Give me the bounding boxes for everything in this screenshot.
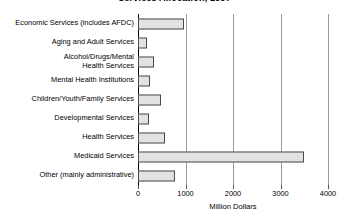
bar [138,113,149,124]
x-axis-tick-label: 2000 [225,189,241,198]
x-axis-tick-label: 1000 [177,189,193,198]
bar [138,94,161,105]
x-axis-tick-label: 3000 [272,189,288,198]
bar-row: Mental Health Institutions [0,71,349,90]
bar-track [138,71,349,90]
category-label: Children/Youth/Family Services [0,95,138,103]
bar-track [138,147,349,166]
bar-track [138,166,349,185]
x-axis-label: Million Dollars [138,202,328,211]
bar-row: Children/Youth/Family Services [0,90,349,109]
bar-row: Developmental Services [0,109,349,128]
bar-chart: Services Allocation, 1997 Economic Servi… [0,0,349,224]
bar-track [138,90,349,109]
x-axis-tick-labels: 01000200030004000 [0,189,349,200]
x-axis-tick-label: 4000 [320,189,336,198]
bar-track [138,109,349,128]
bar [138,75,150,86]
bar-track [138,14,349,33]
bar-track [138,33,349,52]
bar [138,132,165,143]
category-label: Health Services [0,133,138,141]
bar [138,18,184,29]
bar-row: Alcohol/Drugs/Mental Health Services [0,52,349,71]
bar [138,56,154,67]
category-label: Other (mainly administrative) [0,171,138,179]
bar [138,151,304,162]
bar-rows: Economic Services (includes AFDC)Aging a… [0,0,349,186]
bar-row: Other (mainly administrative) [0,166,349,185]
category-label: Economic Services (includes AFDC) [0,19,138,27]
bar-row: Health Services [0,128,349,147]
category-label: Medicaid Services [0,152,138,160]
category-label: Mental Health Institutions [0,76,138,84]
bar-row: Medicaid Services [0,147,349,166]
bar-track [138,52,349,71]
category-label: Developmental Services [0,114,138,122]
bar-track [138,128,349,147]
category-label: Aging and Adult Services [0,38,138,46]
bar-row: Economic Services (includes AFDC) [0,14,349,33]
bar [138,170,175,181]
bar-row: Aging and Adult Services [0,33,349,52]
bar [138,37,147,48]
category-label: Alcohol/Drugs/Mental Health Services [0,53,138,69]
x-axis-tick-label: 0 [136,189,140,198]
